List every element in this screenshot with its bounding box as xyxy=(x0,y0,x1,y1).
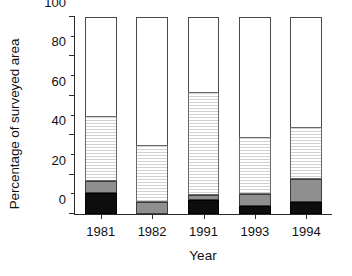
bar-1981 xyxy=(85,17,117,214)
y-axis-tick-label: 60 xyxy=(52,73,66,88)
bar-1994 xyxy=(290,17,322,214)
y-axis-tick-label: 20 xyxy=(52,152,66,167)
y-axis-minor-tick xyxy=(71,36,75,37)
bar-segment-gray xyxy=(136,202,168,214)
x-axis-tick-label: 1994 xyxy=(292,224,321,239)
y-axis-tick xyxy=(69,95,75,96)
x-axis-tick xyxy=(101,214,102,219)
y-axis-minor-tick xyxy=(71,115,75,116)
bar-segment-gray xyxy=(290,179,322,203)
bar-segment-gray xyxy=(85,181,117,194)
x-axis-tick xyxy=(152,214,153,219)
y-axis-minor-tick xyxy=(71,154,75,155)
x-axis-tick-label: 1991 xyxy=(189,224,218,239)
bar-1991 xyxy=(188,17,220,214)
y-axis-tick-label: 80 xyxy=(52,34,66,49)
y-axis-tick-label: 100 xyxy=(44,0,66,10)
x-axis-tick-label: 1982 xyxy=(138,224,167,239)
y-axis-tick xyxy=(69,134,75,135)
bar-segment-black xyxy=(239,206,271,214)
y-axis-minor-tick xyxy=(71,193,75,194)
bar-segment-dotted xyxy=(188,92,220,195)
bar-segment-dotted xyxy=(239,137,271,194)
x-axis-title: Year xyxy=(74,248,332,263)
bar-segment-black xyxy=(290,202,322,214)
bar-segment-dotted xyxy=(85,116,117,181)
x-axis-tick xyxy=(204,214,205,219)
bar-segment-gray xyxy=(188,195,220,200)
x-axis-tick-label: 1993 xyxy=(240,224,269,239)
x-axis-tick xyxy=(255,214,256,219)
plot-area: 02040608010019811982199119931994 xyxy=(74,17,332,215)
bar-segment-dotted xyxy=(290,127,322,178)
y-axis-tick xyxy=(69,16,75,17)
bar-1993 xyxy=(239,17,271,214)
y-axis-tick xyxy=(69,213,75,214)
y-axis-tick xyxy=(69,55,75,56)
y-axis-tick-label: 40 xyxy=(52,113,66,128)
bar-1982 xyxy=(136,17,168,214)
chart-figure: Percentage of surveyed area 020406080100… xyxy=(0,0,352,276)
bar-segment-dotted xyxy=(136,145,168,202)
bar-segment-gray xyxy=(239,194,271,206)
y-axis-tick-label: 0 xyxy=(59,192,66,207)
y-axis-tick xyxy=(69,174,75,175)
bar-segment-black xyxy=(85,193,117,214)
y-axis-minor-tick xyxy=(71,75,75,76)
y-axis-title: Percentage of surveyed area xyxy=(2,8,28,240)
bar-segment-black xyxy=(188,200,220,214)
x-axis-tick xyxy=(306,214,307,219)
x-axis-tick-label: 1981 xyxy=(86,224,115,239)
